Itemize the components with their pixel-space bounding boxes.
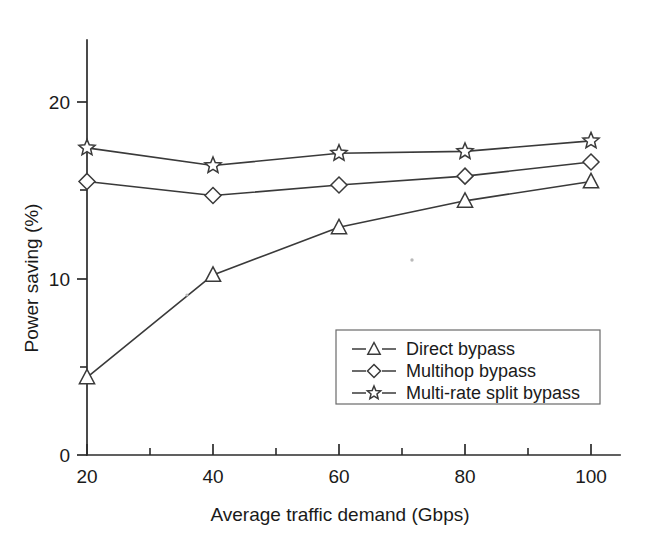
- x-axis-tick-labels: 20 40 60 80 100: [76, 466, 606, 487]
- star-marker: [205, 157, 221, 172]
- x-tick-label-40: 40: [202, 466, 223, 487]
- legend-label: Multihop bypass: [406, 361, 536, 381]
- y-tick-label-10: 10: [49, 269, 70, 290]
- scan-speck: [185, 293, 188, 296]
- diamond-marker: [583, 154, 599, 170]
- legend-label: Direct bypass: [406, 339, 515, 359]
- diamond-marker: [79, 173, 95, 189]
- star-marker: [457, 143, 473, 158]
- y-axis-tick-labels: 0 10 20: [49, 92, 70, 466]
- x-tick-label-100: 100: [575, 466, 607, 487]
- series-multi-rate-split-bypass: [79, 132, 599, 172]
- line-chart: 0 10 20 20 40 60 80 100 Average traffic …: [0, 0, 670, 539]
- scan-speck: [410, 258, 413, 261]
- triangle-marker: [205, 267, 220, 281]
- diamond-marker: [205, 188, 221, 204]
- legend: Direct bypassMultihop bypassMulti-rate s…: [336, 330, 600, 404]
- x-tick-label-20: 20: [76, 466, 97, 487]
- y-axis-title: Power saving (%): [21, 204, 42, 353]
- legend-label: Multi-rate split bypass: [406, 383, 580, 403]
- y-tick-label-0: 0: [59, 445, 70, 466]
- x-axis-title: Average traffic demand (Gbps): [210, 504, 469, 525]
- star-marker: [331, 145, 347, 160]
- triangle-marker: [583, 173, 598, 187]
- star-marker: [583, 132, 599, 147]
- triangle-marker: [79, 369, 94, 383]
- star-marker: [79, 139, 95, 154]
- series-multihop-bypass: [79, 154, 599, 204]
- diamond-marker: [331, 177, 347, 193]
- chart-figure: 0 10 20 20 40 60 80 100 Average traffic …: [0, 0, 670, 539]
- x-tick-label-80: 80: [454, 466, 475, 487]
- x-axis-ticks: [87, 444, 591, 455]
- y-tick-label-20: 20: [49, 92, 70, 113]
- diamond-marker: [457, 168, 473, 184]
- x-tick-label-60: 60: [328, 466, 349, 487]
